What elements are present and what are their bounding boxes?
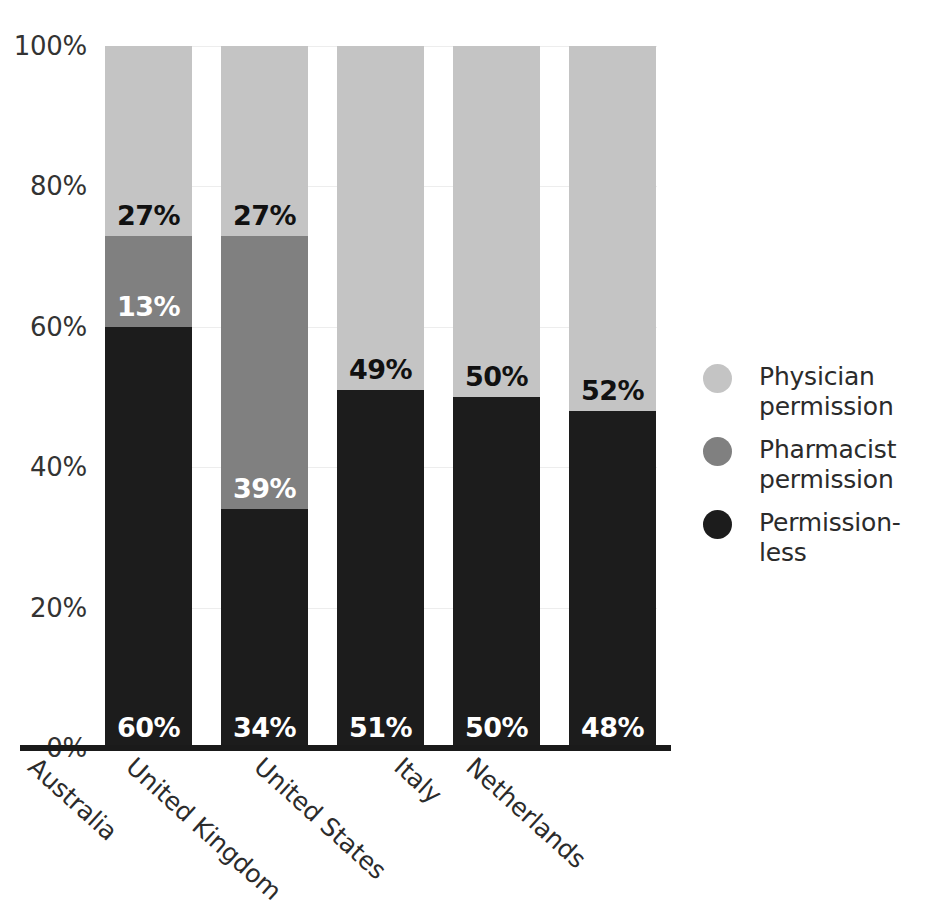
legend-item[interactable]: Pharmacist permission [703, 435, 933, 494]
legend-label: Physician permission [759, 362, 933, 421]
legend-swatch-icon [703, 364, 732, 393]
bar-segment-value-label: 13% [117, 293, 180, 327]
legend-label: Pharmacist permission [759, 435, 933, 494]
bar-segment-physician[interactable]: 27% [105, 46, 192, 236]
bar-segment-value-label: 49% [349, 356, 412, 390]
bar-australia[interactable]: 27%13%60% [105, 46, 192, 748]
bar-segment-permissionless[interactable]: 48% [569, 411, 656, 748]
bar-segment-physician[interactable]: 27% [221, 46, 308, 236]
bar-segment-value-label: 52% [581, 377, 644, 411]
legend-item[interactable]: Permission-less [703, 508, 933, 567]
bar-segment-value-label: 50% [465, 363, 528, 397]
bar-segment-value-label: 60% [117, 714, 180, 748]
bar-segment-permissionless[interactable]: 60% [105, 327, 192, 748]
x-axis-label-australia: Australia [23, 752, 123, 846]
y-axis-tick-label: 20% [30, 593, 87, 623]
bar-italy[interactable]: 50%50% [453, 46, 540, 748]
legend-swatch-icon [703, 510, 732, 539]
bar-segment-value-label: 34% [233, 714, 296, 748]
bar-segment-physician[interactable]: 50% [453, 46, 540, 397]
x-axis-labels: AustraliaUnited KingdomUnited StatesItal… [0, 752, 940, 897]
bar-segment-physician[interactable]: 49% [337, 46, 424, 390]
bar-segment-physician[interactable]: 52% [569, 46, 656, 411]
bar-segment-pharmacist[interactable]: 13% [105, 236, 192, 327]
bar-segment-permissionless[interactable]: 50% [453, 397, 540, 748]
bar-segment-value-label: 27% [233, 202, 296, 236]
bar-segment-pharmacist[interactable]: 39% [221, 236, 308, 510]
y-axis-tick-label: 80% [30, 171, 87, 201]
y-axis-tick-label: 40% [30, 452, 87, 482]
plot-area: 27%13%60%27%39%34%49%51%50%50%52%48% [105, 46, 655, 748]
bar-segment-permissionless[interactable]: 34% [221, 509, 308, 748]
bar-segment-value-label: 51% [349, 714, 412, 748]
legend-swatch-icon [703, 437, 732, 466]
bar-segment-value-label: 27% [117, 202, 180, 236]
bar-united-kingdom[interactable]: 27%39%34% [221, 46, 308, 748]
x-axis-label-united-states: United States [249, 752, 392, 885]
y-axis-tick-label: 60% [30, 312, 87, 342]
x-axis-label-netherlands: Netherlands [461, 752, 592, 874]
x-axis-label-italy: Italy [389, 752, 448, 809]
bar-segment-permissionless[interactable]: 51% [337, 390, 424, 748]
bar-united-states[interactable]: 49%51% [337, 46, 424, 748]
bar-netherlands[interactable]: 52%48% [569, 46, 656, 748]
y-axis-tick-label: 100% [14, 31, 87, 61]
bar-segment-value-label: 50% [465, 714, 528, 748]
bar-segment-value-label: 48% [581, 714, 644, 748]
bar-segment-value-label: 39% [233, 475, 296, 509]
legend-label: Permission-less [759, 508, 933, 567]
legend-item[interactable]: Physician permission [703, 362, 933, 421]
x-axis-line [20, 745, 671, 751]
